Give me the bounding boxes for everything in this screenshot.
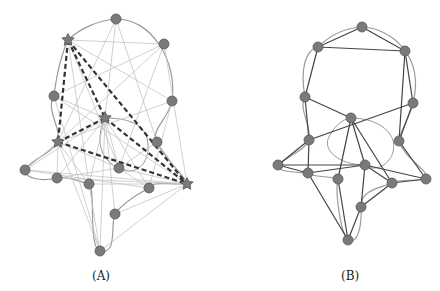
node-icon	[357, 22, 367, 32]
edge	[305, 47, 318, 97]
node-icon	[400, 46, 410, 56]
edge	[361, 165, 365, 207]
panel-a-caption: (A)	[92, 269, 110, 283]
node-icon	[111, 14, 121, 24]
node-icon	[408, 98, 418, 108]
node-icon	[167, 96, 177, 106]
edge	[25, 118, 105, 170]
node-icon	[356, 202, 366, 212]
node-icon	[387, 178, 397, 188]
edge	[57, 178, 187, 184]
node-icon	[110, 209, 120, 219]
node-icon	[333, 174, 343, 184]
graph-figure	[0, 0, 440, 291]
node-icon	[394, 136, 404, 146]
node-icon	[114, 163, 124, 173]
edge	[58, 142, 100, 251]
node-icon	[300, 92, 310, 102]
star-node-icon	[62, 34, 74, 46]
node-icon	[144, 183, 154, 193]
edge	[318, 27, 362, 47]
panel-a-graph	[20, 14, 193, 256]
node-icon	[303, 168, 313, 178]
edge	[25, 142, 58, 170]
panel-b-caption: (B)	[341, 269, 359, 283]
node-icon	[152, 137, 162, 147]
edge	[100, 118, 105, 251]
node-icon	[159, 39, 169, 49]
node-icon	[343, 235, 353, 245]
node-icon	[360, 160, 370, 170]
edge	[405, 51, 413, 103]
node-icon	[313, 42, 323, 52]
node-icon	[95, 246, 105, 256]
edge	[278, 140, 309, 165]
node-icon	[49, 91, 59, 101]
node-icon	[273, 160, 283, 170]
edge	[164, 44, 187, 184]
dashed-edge	[58, 118, 105, 142]
edge	[105, 19, 116, 118]
edge	[351, 118, 392, 183]
edge	[318, 47, 405, 51]
edge	[308, 165, 365, 173]
node-icon	[346, 113, 356, 123]
edge	[351, 118, 365, 165]
loop-curve	[327, 118, 393, 168]
edge	[305, 97, 351, 118]
node-icon	[421, 174, 431, 184]
edge	[68, 40, 164, 44]
edge	[362, 27, 405, 51]
edge	[54, 44, 164, 96]
node-icon	[304, 135, 314, 145]
node-icon	[84, 179, 94, 189]
panel-b-graph	[273, 22, 431, 245]
node-icon	[52, 173, 62, 183]
node-icon	[20, 165, 30, 175]
